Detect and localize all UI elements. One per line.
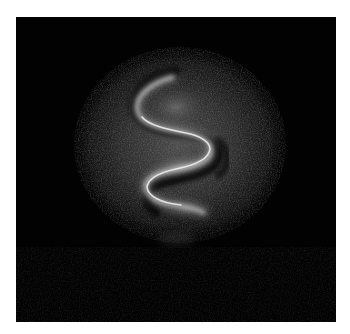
image-frame — [16, 17, 336, 322]
s-curve-image — [16, 17, 336, 322]
